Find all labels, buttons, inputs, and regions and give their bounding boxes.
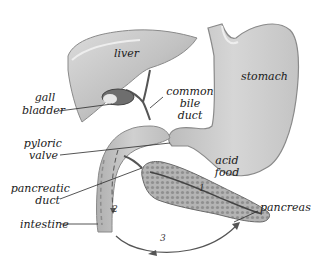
label-acid-food-line2: food [212,167,242,178]
label-pyloric-valve-line2: valve [20,150,58,161]
label-pyloric-valve-line1: pyloric [20,138,62,149]
label-pancreatic-duct-line1: pancreatic [8,183,70,194]
label-pancreatic-duct-line2: duct [8,195,60,206]
label-gall-bladder-line2: bladder [22,105,65,116]
label-gall-bladder-line1: gall [32,92,58,103]
step-marker-1: 1 [199,183,205,193]
label-intestine: intestine [20,219,69,230]
label-common-bile-duct-line3: duct [166,110,214,121]
gall-bladder-shape [102,89,134,105]
label-pancreas: pancreas [260,202,311,213]
label-common-bile-duct-line2: bile [166,98,214,109]
label-acid-food-line1: acid [212,155,242,166]
anatomy-diagram: liver stomach gall bladder common bile d… [0,0,316,257]
label-common-bile-duct-line1: common [166,86,214,97]
step-marker-2: 2 [112,204,118,214]
label-stomach: stomach [241,71,288,82]
step-marker-3: 3 [160,233,166,243]
flow-arrow [116,226,236,252]
label-liver: liver [114,48,139,59]
